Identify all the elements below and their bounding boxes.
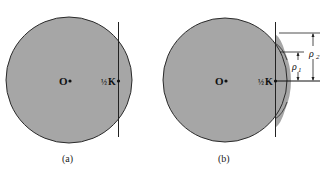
label-rho2: ρ [308, 48, 314, 59]
point-k-a [117, 79, 120, 82]
caption-b: (b) [218, 153, 230, 165]
rho1-arrowhead-bottom [297, 77, 300, 81]
point-o-a [68, 79, 71, 82]
label-o-b: O [215, 75, 224, 87]
point-o-b [224, 79, 227, 82]
diagram-canvas: O ½ K (a) O ½ K ρ 1 ρ 2 [0, 0, 326, 171]
rho1-arrowhead-top [297, 52, 300, 56]
label-k-b: K [265, 76, 273, 87]
caption-a: (a) [62, 153, 73, 165]
label-rho2-sub: 2 [316, 53, 320, 61]
label-k-a: K [108, 76, 116, 87]
label-half-b: ½ [258, 78, 264, 87]
label-rho1: ρ [291, 61, 297, 72]
label-half-a: ½ [101, 78, 107, 87]
rho2-arrowhead-bottom [312, 77, 315, 81]
panel-a: O ½ K (a) [6, 17, 132, 165]
panel-b: O ½ K ρ 1 ρ 2 (b) [163, 18, 326, 165]
rho2-arrowhead-top [312, 33, 315, 37]
label-o-a: O [59, 75, 68, 87]
label-rho1-sub: 1 [298, 66, 302, 74]
